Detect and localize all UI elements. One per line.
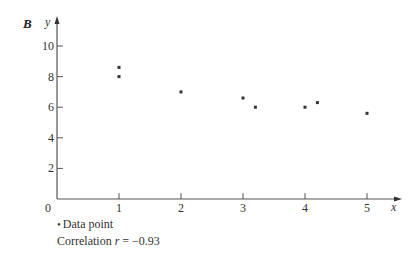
legend-data-point: •Data point	[57, 217, 113, 232]
correlation-value: = −0.93	[122, 234, 160, 248]
x-ticks: 12345	[116, 193, 370, 215]
axes: y x 0	[44, 15, 402, 215]
data-point	[180, 90, 183, 93]
y-tick-label: 6	[48, 100, 54, 114]
data-point-marker-icon: •	[57, 218, 61, 230]
x-axis-label: x	[390, 200, 397, 214]
y-axis-label: y	[44, 15, 51, 29]
data-point	[242, 97, 245, 100]
data-point	[118, 66, 121, 69]
x-tick-label: 3	[240, 201, 246, 215]
y-tick-label: 8	[48, 70, 54, 84]
correlation-annotation: Correlation r = −0.93	[57, 234, 160, 249]
y-tick-label: 4	[48, 131, 54, 145]
y-axis-arrow-icon	[55, 16, 60, 24]
data-point	[366, 112, 369, 115]
data-point	[304, 106, 307, 109]
data-point	[118, 75, 121, 78]
y-tick-label: 10	[42, 39, 54, 53]
y-tick-label: 2	[48, 161, 54, 175]
x-tick-label: 5	[364, 201, 370, 215]
panel-label: B	[22, 16, 32, 31]
correlation-variable: r	[115, 234, 120, 248]
origin-label: 0	[45, 201, 51, 215]
x-tick-label: 1	[116, 201, 122, 215]
x-tick-label: 2	[178, 201, 184, 215]
x-tick-label: 4	[302, 201, 308, 215]
y-ticks: 246810	[42, 39, 63, 175]
data-point	[254, 106, 257, 109]
legend-label: Data point	[63, 217, 113, 231]
data-point	[316, 101, 319, 104]
data-points	[118, 66, 369, 115]
correlation-prefix: Correlation	[57, 234, 112, 248]
